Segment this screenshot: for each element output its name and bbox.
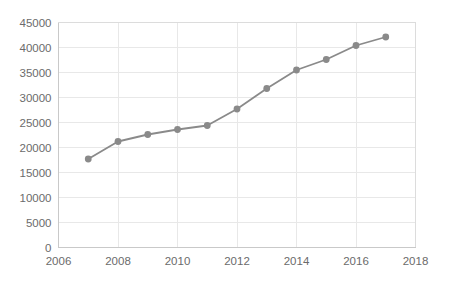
data-point-marker bbox=[263, 85, 270, 92]
data-point-marker bbox=[382, 34, 389, 41]
data-point-marker bbox=[323, 56, 330, 63]
y-tick-label: 25000 bbox=[20, 117, 52, 129]
x-axis-tick-labels: 2006200820102012201420162018 bbox=[46, 255, 429, 267]
y-tick-label: 45000 bbox=[20, 17, 52, 29]
y-tick-label: 40000 bbox=[20, 42, 52, 54]
line-chart: 0500010000150002000025000300003500040000… bbox=[0, 0, 465, 286]
y-tick-label: 35000 bbox=[20, 67, 52, 79]
data-point-marker bbox=[85, 156, 92, 163]
y-tick-label: 30000 bbox=[20, 92, 52, 104]
y-axis-tick-labels: 0500010000150002000025000300003500040000… bbox=[20, 17, 52, 254]
x-tick-label: 2014 bbox=[284, 255, 310, 267]
data-point-marker bbox=[353, 42, 360, 49]
data-point-marker bbox=[293, 67, 300, 74]
x-tick-label: 2006 bbox=[46, 255, 72, 267]
data-point-marker bbox=[234, 106, 241, 113]
y-tick-label: 20000 bbox=[20, 142, 52, 154]
x-tick-label: 2012 bbox=[224, 255, 250, 267]
x-tick-label: 2008 bbox=[105, 255, 131, 267]
data-point-marker bbox=[204, 122, 211, 129]
y-tick-label: 10000 bbox=[20, 192, 52, 204]
data-point-marker bbox=[144, 131, 151, 138]
x-tick-label: 2016 bbox=[343, 255, 369, 267]
chart-canvas: 0500010000150002000025000300003500040000… bbox=[0, 0, 465, 286]
y-tick-label: 5000 bbox=[26, 217, 52, 229]
y-tick-label: 0 bbox=[45, 242, 51, 254]
data-point-marker bbox=[115, 138, 122, 145]
data-point-marker bbox=[174, 126, 181, 133]
x-tick-label: 2018 bbox=[403, 255, 429, 267]
x-tick-label: 2010 bbox=[165, 255, 191, 267]
gridlines-group bbox=[59, 23, 416, 248]
y-tick-label: 15000 bbox=[20, 167, 52, 179]
